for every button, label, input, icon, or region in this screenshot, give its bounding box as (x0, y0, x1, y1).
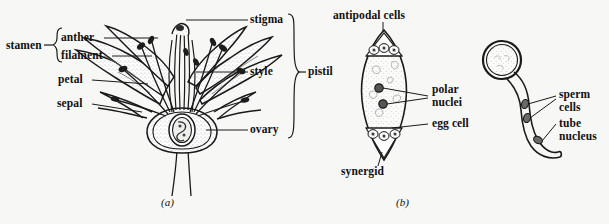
pistil-brace (288, 14, 306, 138)
botany-figure: stamen anther filament petal sepal stigm… (0, 0, 609, 224)
label-filament: filament (61, 49, 103, 61)
label-sperm-cells-line1: sperm (559, 88, 590, 100)
label-sperm-cells-line2: cells (559, 101, 581, 113)
label-ovary: ovary (250, 123, 279, 135)
label-anther: anther (61, 31, 94, 43)
label-stigma: stigma (250, 13, 283, 25)
label-stamen: stamen (6, 39, 42, 51)
label-pistil: pistil (308, 65, 333, 77)
tube-nucleus (532, 135, 543, 145)
label-polar-nuclei-line1: polar (432, 83, 459, 95)
embryo-sac-drawing (362, 22, 428, 166)
label-egg-cell: egg cell (432, 117, 469, 129)
panel-caption-b: (b) (396, 196, 409, 208)
label-polar-nuclei-line2: nuclei (432, 96, 462, 108)
stigma (172, 23, 189, 36)
stamen-brace (44, 28, 62, 62)
leader-lines-pollen-tube (528, 96, 556, 141)
label-tube-nucleus-line2: nucleus (559, 130, 597, 142)
label-petal: petal (58, 73, 83, 85)
label-antipodal-cells: antipodal cells (333, 9, 405, 21)
label-tube-nucleus-line1: tube (559, 117, 581, 129)
style (169, 28, 195, 112)
egg-apparatus (366, 128, 402, 158)
pollen-tube-drawing (483, 41, 561, 158)
antipodal-cells (366, 33, 402, 56)
label-style: style (250, 65, 273, 77)
panel-caption-a: (a) (161, 196, 174, 208)
label-sepal: sepal (57, 97, 82, 109)
label-synergid: synergid (341, 165, 384, 177)
pedicel (172, 150, 191, 196)
